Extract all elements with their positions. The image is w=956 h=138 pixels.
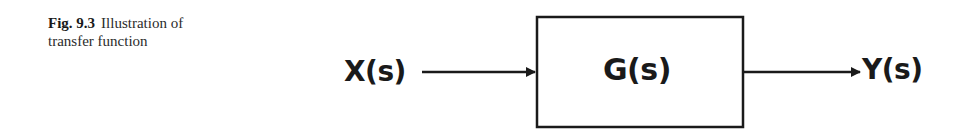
block-label: G(s) [603, 53, 671, 87]
output-signal-label: Y(s) [862, 53, 923, 87]
block-diagram [0, 0, 956, 138]
input-signal-label: X(s) [344, 55, 406, 89]
